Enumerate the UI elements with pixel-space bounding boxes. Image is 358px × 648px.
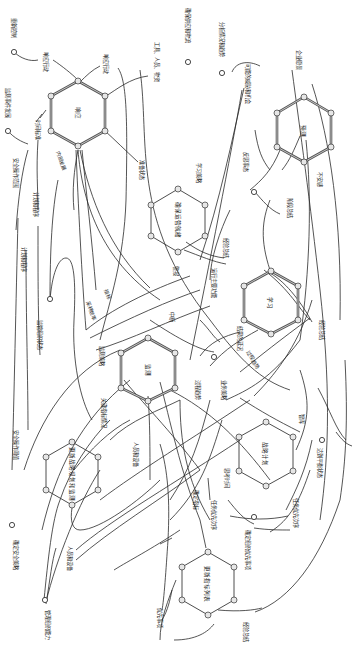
label-unease: 不安感 <box>316 172 324 187</box>
edges <box>8 52 352 640</box>
label-experience-summary-1: 经验总结 <box>222 238 230 258</box>
label-plans-procedures-2: 计划和程序 <box>20 247 28 272</box>
label-confirm-safety-strategy: 确定安全策略 <box>12 540 20 571</box>
label-task-priority-2: 任务优先次序 <box>292 498 300 528</box>
resilience-function-diagram: 响应 确保运营就绪 预测 学习 <box>0 0 358 648</box>
label-plans-procedures-1: 计划和程序 <box>32 192 40 217</box>
label-business-strategy: 业务策略 <box>220 380 228 401</box>
label-confirm-org-priorities: 确定组织优先事项 <box>244 530 252 570</box>
label-think-tank: 智库 <box>298 414 306 424</box>
label-priorities: 优先事项 <box>156 608 164 628</box>
hexagon-respond: 响应 <box>48 78 108 149</box>
hexagon-strategic-plan: 战略计划 <box>236 419 296 489</box>
label-internal-dev: 内部发展 <box>54 150 68 172</box>
label-key-indicator: 关键指标情况 <box>100 398 108 429</box>
label-safe-op-range: 安全操作范围 <box>12 158 20 188</box>
label-alert: 警报 <box>172 266 180 276</box>
label-time-standard: 时间标准 <box>34 120 42 140</box>
hexagon-monitor: 监测 <box>118 335 178 404</box>
label-analyze-trends: 分析情况和趋势 <box>218 22 226 57</box>
label-response-action-1: 响应行动 <box>42 52 50 72</box>
label-safe-op-threshold: 安全操作阈值 <box>12 430 20 460</box>
label-learning-strategy: 学习策略 <box>195 163 203 184</box>
label-indicator: 指标 <box>102 288 113 300</box>
hexagon-respond-label: 响应 <box>74 107 82 119</box>
label-phase-summary-1: 阶段总结 <box>286 198 294 218</box>
hexagon-update-metrics: 更新指标列表 <box>179 549 237 618</box>
hexagon-learn: 学习 <box>241 268 301 337</box>
hexagon-predict-label: 预测 <box>299 125 307 137</box>
hexagon-confirm-operation-label: 确保运营就绪 <box>174 202 182 238</box>
label-think-time: 思考时间 <box>223 468 231 488</box>
label-interrupt: 中断 <box>168 312 176 322</box>
label-manage-org-capability: 管理组织能力 <box>44 610 52 640</box>
label-task-priority-1: 任务优先次序 <box>210 500 218 530</box>
label-tools-people-materials: 工具、人员、物资 <box>153 42 161 82</box>
hexagon-monitor-label: 监测 <box>144 364 152 376</box>
label-enterprise-vision: 企业愿景 <box>295 50 303 70</box>
label-experience-summary-2: 经验总结 <box>318 320 326 340</box>
label-readiness: 准备状态 <box>138 160 146 180</box>
hexagon-update-metrics-label: 更新指标列表 <box>203 566 211 602</box>
hexagon-predict: 预测 <box>274 94 334 165</box>
label-run-main-func: 运行主要功能 <box>210 268 218 298</box>
label-sampling-freq: 采样频率 <box>84 300 98 322</box>
hexagon-strategic-plan-label: 战略计划 <box>261 442 269 466</box>
label-ensure-supply: 确保供应和物流 <box>184 8 192 43</box>
label-people-equipment-1: 人员和设备 <box>132 442 140 468</box>
label-experience-summary-3: 经验总结 <box>242 622 250 642</box>
label-result-delay: 结果的延迟 <box>236 326 244 351</box>
label-process-trend-2: 过程趋势 <box>194 380 202 400</box>
label-monitor-org-state: 监管组织状态 <box>36 320 44 350</box>
label-confirm-indicator: 确定指标 <box>192 490 200 510</box>
label-threats-opportunities: 可能的威胁和机会 <box>244 64 252 104</box>
label-regain-control: 重新控制 <box>10 18 18 38</box>
hexagon-update-plan-label: 更新战略规划和监测 <box>68 447 76 501</box>
label-monitor-strategy: 监测策略 <box>98 346 106 367</box>
label-monitor-event-dev: 监测事件发展 <box>4 88 12 118</box>
label-people-equipment-2: 人员和设备 <box>66 546 74 572</box>
label-process-trend-1: 过程趋势 <box>244 349 261 370</box>
label-reflect: 反思事态 <box>242 152 250 172</box>
label-response-action-2: 响应行动 <box>102 54 110 74</box>
label-reach-balance: 达到平衡状态 <box>316 448 324 478</box>
hexagon-learn-label: 学习 <box>266 297 274 309</box>
